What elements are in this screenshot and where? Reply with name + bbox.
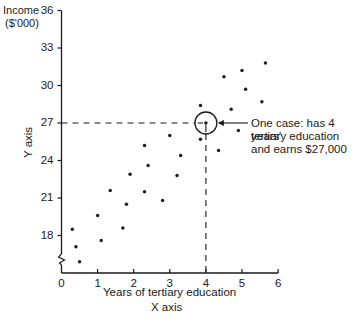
data-point [74,245,77,248]
data-point [121,226,124,229]
data-point [237,129,240,132]
data-point [260,100,263,103]
data-point [240,69,243,72]
y-title-line2: ($'000) [5,17,39,29]
data-point [179,154,182,157]
y-tick-label: 33 [30,41,54,53]
arrow-head-icon [218,120,224,126]
y-tick-label: 30 [30,79,54,91]
annotation-line2: tertiary education [251,130,339,143]
x-tick-label: 3 [162,277,178,289]
x-tick-label: 2 [126,277,142,289]
x-tick-label: 6 [270,277,286,289]
data-point [229,108,232,111]
x-tick-label: 5 [234,277,250,289]
data-point [143,190,146,193]
data-point [71,228,74,231]
data-point [168,134,171,137]
data-point [78,260,81,263]
y-tick-label: 21 [30,191,54,203]
data-point [244,88,247,91]
x-tick-label: 4 [198,277,214,289]
data-point [109,189,112,192]
y-tick-label: 18 [30,229,54,241]
data-point [204,121,207,124]
x-axis-label: X axis [151,301,182,313]
data-point [100,239,103,242]
axis-break-icon [59,254,65,265]
data-point [222,75,225,78]
y-tick-label: 36 [30,4,54,16]
data-point [199,104,202,107]
data-point [96,214,99,217]
annotation-line3: and earns $27,000 [251,143,347,156]
x-tick-label: 1 [90,277,106,289]
data-point [217,149,220,152]
y-tick-label: 27 [30,116,54,128]
data-point [125,203,128,206]
y-tick-label: 24 [30,154,54,166]
data-point [146,164,149,167]
data-point [199,138,202,141]
x-tick-label: 0 [54,277,70,289]
data-point [175,174,178,177]
data-point [264,61,267,64]
data-point [161,199,164,202]
data-point [128,173,131,176]
data-point [143,144,146,147]
